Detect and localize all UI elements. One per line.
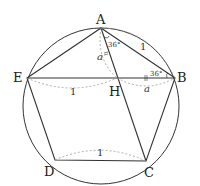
label-B: B <box>177 70 187 85</box>
label-AH-length: a <box>97 51 103 62</box>
label-D: D <box>44 164 54 179</box>
pentagon-diagram: A B C D E H 1 1 1 a a 36° 36° <box>0 0 200 186</box>
label-angle-A: 36° <box>108 41 120 49</box>
label-DC-length: 1 <box>97 147 103 158</box>
label-angle-B: 36° <box>150 70 162 78</box>
label-H: H <box>109 84 120 99</box>
tick-AH-2 <box>104 54 108 55</box>
angle-arc-A <box>104 36 109 38</box>
label-E: E <box>13 70 23 85</box>
tick-AH <box>104 52 108 53</box>
label-A: A <box>95 12 106 27</box>
label-AB-length: 1 <box>140 41 146 52</box>
label-EH-length: 1 <box>70 86 76 97</box>
label-HB-length: a <box>144 83 150 94</box>
label-C: C <box>144 165 154 180</box>
